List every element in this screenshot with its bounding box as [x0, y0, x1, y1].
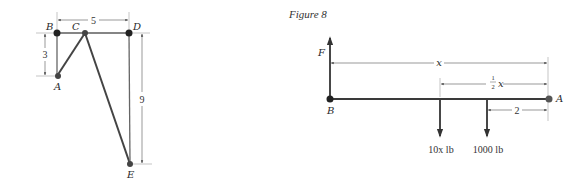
node-A — [55, 73, 61, 79]
beam-diagram: Figure 8 F x 1 2 x B A 2 — [288, 8, 563, 155]
label-F: F — [317, 47, 326, 58]
label-B: B — [45, 21, 53, 32]
label-E: E — [126, 169, 135, 180]
label-D: D — [132, 21, 141, 32]
diagram-canvas: 5 3 9 B C D A E Figure 8 F — [0, 0, 582, 188]
point-B — [327, 96, 334, 103]
label-B: B — [326, 105, 334, 116]
dimension-label-2: 2 — [515, 105, 520, 116]
node-B — [54, 30, 61, 37]
load-10x-label: 10x lb — [428, 144, 453, 155]
label-A: A — [53, 81, 61, 92]
node-D — [126, 30, 133, 37]
dimension-label-x: x — [436, 57, 442, 68]
truss-diagram: 5 3 9 B C D A E — [36, 12, 152, 180]
label-C: C — [72, 21, 80, 32]
dimension-label-9: 9 — [140, 94, 145, 105]
fraction-denominator: 2 — [491, 83, 494, 90]
fraction-variable: x — [498, 78, 504, 89]
label-A: A — [555, 93, 563, 104]
dimension-label-half-x: 1 2 x — [490, 74, 504, 90]
load-1000-label: 1000 lb — [473, 144, 503, 155]
point-A — [546, 96, 553, 103]
member-AC — [57, 33, 85, 76]
node-E — [127, 161, 133, 167]
member-DE — [129, 33, 130, 164]
node-C — [82, 30, 88, 36]
dimension-label-5: 5 — [91, 15, 96, 26]
member-CE — [85, 33, 130, 164]
dimension-label-3: 3 — [43, 49, 48, 60]
fraction-numerator: 1 — [491, 74, 494, 81]
figure-title: Figure 8 — [288, 8, 327, 20]
